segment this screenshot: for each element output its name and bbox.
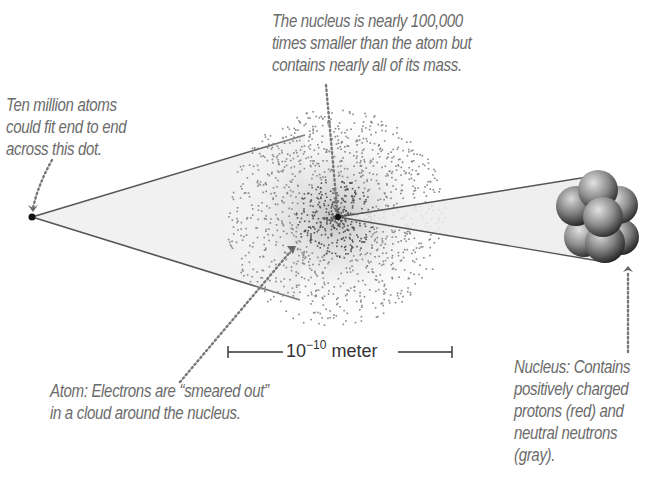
nucleus-point — [335, 214, 341, 220]
caption-line: could fit end to end — [6, 116, 126, 138]
atom-caption: Atom: Electrons are “smeared out” in a c… — [50, 380, 269, 424]
scale-label: 10−10 meter — [286, 338, 377, 362]
caption-line: Ten million atoms — [6, 94, 126, 116]
tiny-dot — [29, 214, 36, 221]
caption-line: Atom: Electrons are “smeared out” — [50, 380, 269, 402]
dot-leader — [33, 160, 52, 208]
dot-caption: Ten million atoms could fit end to end a… — [6, 94, 126, 160]
caption-line: The nucleus is nearly 100,000 — [272, 10, 471, 32]
scale-base: 10 — [286, 341, 306, 361]
caption-line: Nucleus: Contains — [514, 356, 630, 378]
nucleus-arrowhead-icon — [623, 266, 633, 272]
caption-line: neutral neutrons — [514, 422, 630, 444]
caption-line: in a cloud around the nucleus. — [50, 402, 269, 424]
caption-line: contains nearly all of its mass. — [272, 54, 471, 76]
scale-exponent: −10 — [306, 338, 326, 352]
caption-line: protons (red) and — [514, 400, 630, 422]
scale-unit: meter — [331, 341, 377, 361]
nucleus-scale-caption: The nucleus is nearly 100,000 times smal… — [272, 10, 471, 76]
atom-diagram: 10−10 meter Ten million atoms could fit … — [0, 0, 655, 489]
nucleus-caption: Nucleus: Contains positively charged pro… — [514, 356, 630, 466]
caption-line: positively charged — [514, 378, 630, 400]
caption-line: across this dot. — [6, 138, 126, 160]
caption-line: times smaller than the atom but — [272, 32, 471, 54]
caption-line: (gray). — [514, 444, 630, 466]
